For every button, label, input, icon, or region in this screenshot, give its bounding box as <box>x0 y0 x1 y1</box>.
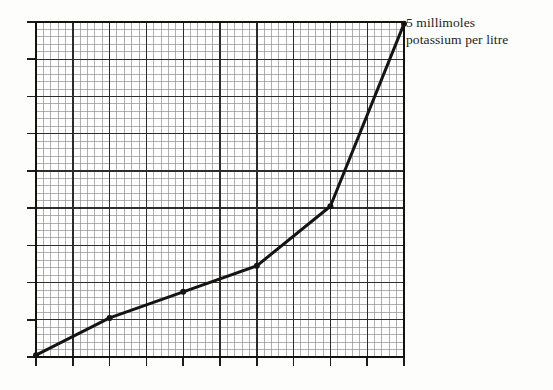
annotation-line-2: potassium per litre <box>406 31 546 48</box>
annotation-line-1: 5 millimoles <box>406 14 546 31</box>
curve-annotation: 5 millimoles potassium per litre <box>406 14 546 48</box>
chart-plot <box>0 0 553 390</box>
figure-container: 5 millimoles potassium per litre <box>0 0 553 390</box>
